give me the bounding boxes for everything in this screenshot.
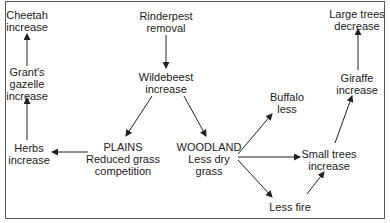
arrow-woodland-buffalo [238,114,272,154]
node-plains-line-1: PLAINS [86,141,160,153]
node-herbs-line-1: Herbs [8,142,50,154]
node-less-fire: Less fire [269,201,311,213]
node-rinderpest: Rinderpest removal [139,10,192,34]
node-rinderpest-line-2: removal [139,22,192,34]
arrow-wildebeest-woodland [184,96,206,136]
node-cheetah-line-1: Cheetah [6,9,48,21]
node-rinderpest-line-1: Rinderpest [139,10,192,22]
arrow-lessfire-smalltrees [307,172,324,194]
arrows-layer [0,0,390,223]
node-herbs-line-2: increase [8,154,50,166]
node-giraffe-line-1: Giraffe [336,72,378,84]
node-woodland: WOODLAND Less dry grass [177,141,242,177]
node-smalltrees-line-2: increase [301,160,356,172]
node-wildebeest: Wildebeest increase [139,71,193,95]
node-gazelle-line-1: Grant's [6,66,48,78]
node-large-trees: Large trees decrease [329,8,385,32]
node-smalltrees-line-1: Small trees [301,148,356,160]
node-cheetah-line-2: increase [6,21,48,33]
node-buffalo-line-2: less [270,103,304,115]
node-woodland-line-1: WOODLAND [177,141,242,153]
node-cheetah: Cheetah increase [6,9,48,33]
node-grants-gazelle: Grant's gazelle increase [6,66,48,102]
arrow-smalltrees-giraffe [335,96,352,143]
node-wildebeest-line-1: Wildebeest [139,71,193,83]
node-woodland-line-3: grass [177,165,242,177]
node-wildebeest-line-2: increase [139,83,193,95]
node-gazelle-line-2: gazelle [6,78,48,90]
node-giraffe: Giraffe increase [336,72,378,96]
node-lessfire-line-1: Less fire [269,201,311,213]
node-buffalo: Buffalo less [270,91,304,115]
node-small-trees: Small trees increase [301,148,356,172]
node-largetrees-line-2: decrease [329,20,385,32]
node-herbs: Herbs increase [8,142,50,166]
node-plains-line-2: Reduced grass [86,153,160,165]
node-woodland-line-2: Less dry [177,153,242,165]
arrow-wildebeest-plains [126,96,152,136]
node-plains: PLAINS Reduced grass competition [86,141,160,177]
arrow-woodland-lessfire [238,160,272,197]
node-giraffe-line-2: increase [336,84,378,96]
node-buffalo-line-1: Buffalo [270,91,304,103]
node-plains-line-3: competition [86,165,160,177]
node-largetrees-line-1: Large trees [329,8,385,20]
node-gazelle-line-3: increase [6,90,48,102]
